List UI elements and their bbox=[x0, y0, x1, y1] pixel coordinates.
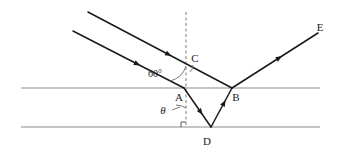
label-angle-60-degrees: 60° bbox=[148, 68, 162, 79]
incident-ray-upper-arrowhead bbox=[165, 51, 172, 56]
reflected-ray-db-arrowhead bbox=[220, 100, 225, 107]
emergent-ray-be-arrowhead bbox=[275, 56, 282, 62]
refracted-ray-a-to-d bbox=[184, 88, 211, 127]
angle-arc-60deg bbox=[170, 66, 186, 81]
optics-ray-diagram: A B C D E 60° θ bbox=[0, 0, 341, 148]
incident-ray-lower bbox=[73, 31, 184, 88]
label-point-a: A bbox=[175, 91, 183, 103]
ray-direction-arrowheads bbox=[133, 51, 282, 115]
label-angle-theta: θ bbox=[160, 104, 166, 116]
right-angle-marker-icon bbox=[181, 122, 186, 127]
label-point-b: B bbox=[232, 91, 239, 103]
label-point-e: E bbox=[317, 21, 324, 33]
label-point-c: C bbox=[191, 52, 198, 64]
label-point-d: D bbox=[203, 135, 211, 147]
emergent-ray-b-to-e bbox=[232, 33, 318, 88]
refracted-ray-ad-arrowhead bbox=[197, 108, 203, 115]
diagram-canvas: A B C D E 60° θ bbox=[0, 0, 341, 148]
theta-leader-line bbox=[172, 107, 180, 110]
reflected-ray-d-to-b bbox=[211, 88, 232, 127]
incident-ray-lower-arrowhead bbox=[133, 60, 140, 65]
